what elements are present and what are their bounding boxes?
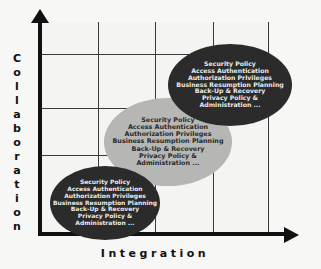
y-axis-arrow-icon [31,9,49,23]
y-axis-label-char: t [6,178,28,192]
x-axis-arrow-icon [284,227,299,243]
y-axis-label-char: r [6,150,28,164]
bubble-stage-3[interactable]: Security Policy Access Authentication Au… [168,44,292,126]
bubble-line: Administration ... [75,220,134,227]
y-axis-label-char: a [6,108,28,122]
y-axis-label-char: a [6,164,28,178]
y-axis-label-char: i [6,192,28,206]
y-axis-label-char: o [6,136,28,150]
y-axis-label: C o l l a b o r a t i o n [6,52,28,234]
y-axis-label-char: C [6,52,28,66]
diagram-canvas: C o l l a b o r a t i o n Integration Se… [0,0,321,269]
bubble-line: Administration ... [136,160,199,167]
y-axis-label-char: b [6,122,28,136]
x-axis-label: Integration [40,247,270,260]
y-axis-label-char: o [6,66,28,80]
y-axis-label-char: n [6,220,28,234]
bubble-stage-1[interactable]: Security Policy Access Authentication Au… [50,166,160,240]
bubble-line: Administration ... [199,102,260,109]
y-axis-label-char: l [6,94,28,108]
y-axis-line [38,20,42,236]
y-axis-label-char: l [6,80,28,94]
y-axis-label-char: o [6,206,28,220]
